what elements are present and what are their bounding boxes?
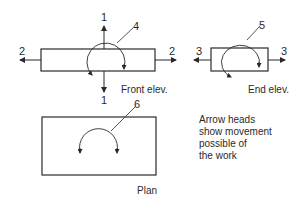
- label-3-left: 3: [196, 45, 202, 57]
- front-elevation-workpiece: [41, 49, 155, 71]
- front-elevation-view: 1 1 2 2 4 Front elev.: [19, 11, 176, 106]
- leader-line: [117, 28, 133, 43]
- plan-caption: Plan: [137, 185, 157, 196]
- label-4: 4: [133, 20, 139, 32]
- note: Arrow heads show movement possible of th…: [199, 114, 272, 161]
- note-line-4: the work: [199, 150, 238, 161]
- end-elevation-view: 3 3 5 End elev.: [194, 19, 289, 95]
- label-2-right: 2: [169, 45, 175, 57]
- note-line-1: Arrow heads: [199, 114, 255, 125]
- end-elevation-caption: End elev.: [248, 84, 289, 95]
- label-1-bottom: 1: [101, 94, 107, 106]
- rotation-arc-icon: [221, 45, 259, 77]
- note-line-3: possible of: [199, 138, 247, 149]
- label-6: 6: [134, 98, 140, 110]
- label-1-top: 1: [101, 11, 107, 23]
- label-3-right: 3: [281, 45, 287, 57]
- note-line-2: show movement: [199, 126, 272, 137]
- label-5: 5: [259, 19, 265, 31]
- rotation-arc-icon: [80, 129, 118, 152]
- plan-view: 6 Plan: [42, 98, 157, 196]
- label-2-left: 2: [19, 45, 25, 57]
- rotation-arc-icon: [87, 43, 125, 75]
- front-elevation-caption: Front elev.: [121, 84, 168, 95]
- work-movement-diagram: 1 1 2 2 4 Front elev. 3 3 5 End elev. 6 …: [0, 0, 305, 211]
- plan-workpiece: [42, 117, 156, 175]
- leader-line: [111, 106, 136, 131]
